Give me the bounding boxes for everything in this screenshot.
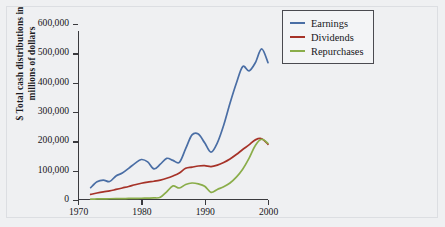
y-axis-title: $ Total cash distributions in millions o… xyxy=(15,0,38,154)
y-tick-label: 100,000 xyxy=(38,164,69,175)
legend-swatch-dividends xyxy=(290,36,305,38)
x-tick: 1970 xyxy=(78,200,79,205)
y-tick-label: 0 xyxy=(64,193,69,204)
y-tick-label: 500,000 xyxy=(38,46,69,57)
legend-item-repurchases[interactable]: Repurchases xyxy=(290,44,364,58)
legend-label-earnings: Earnings xyxy=(311,18,348,29)
legend-item-dividends[interactable]: Dividends xyxy=(290,30,364,44)
legend-item-earnings[interactable]: Earnings xyxy=(290,16,364,30)
legend-swatch-earnings xyxy=(290,22,305,24)
plot-area: 0100,000200,000300,000400,000500,000600,… xyxy=(78,24,268,200)
x-tick-label: 1970 xyxy=(69,206,88,217)
x-tick: 2000 xyxy=(268,200,269,205)
figure-page: $ Total cash distributions in millions o… xyxy=(0,0,445,227)
line-chart: $ Total cash distributions in millions o… xyxy=(0,0,445,227)
chart-legend: Earnings Dividends Repurchases xyxy=(282,10,374,64)
legend-label-repurchases: Repurchases xyxy=(311,46,364,57)
series-group xyxy=(78,24,268,200)
y-axis-title-line2: millions of dollars xyxy=(26,0,38,154)
x-tick: 1980 xyxy=(141,200,142,205)
series-line-repurchases xyxy=(91,139,268,199)
y-tick-label: 400,000 xyxy=(38,76,69,87)
y-tick-label: 600,000 xyxy=(38,17,69,28)
y-axis-title-line1: $ Total cash distributions in xyxy=(15,7,25,121)
legend-swatch-repurchases xyxy=(290,50,305,52)
y-tick-label: 200,000 xyxy=(38,134,69,145)
series-line-dividends xyxy=(91,138,268,194)
series-line-earnings xyxy=(91,49,268,188)
x-tick-label: 2000 xyxy=(259,206,278,217)
x-tick-label: 1980 xyxy=(132,206,151,217)
x-tick: 1990 xyxy=(205,200,206,205)
x-tick-label: 1990 xyxy=(196,206,215,217)
legend-label-dividends: Dividends xyxy=(311,32,354,43)
y-tick-label: 300,000 xyxy=(38,105,69,116)
